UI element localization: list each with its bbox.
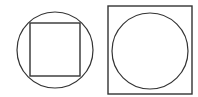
outer-square [108,6,192,94]
inscribed-circle [112,13,188,89]
square-in-circle-figure [17,12,93,88]
circle-in-square-figure [108,6,192,94]
inscribed-square [30,23,80,76]
diagram-canvas [0,0,198,97]
